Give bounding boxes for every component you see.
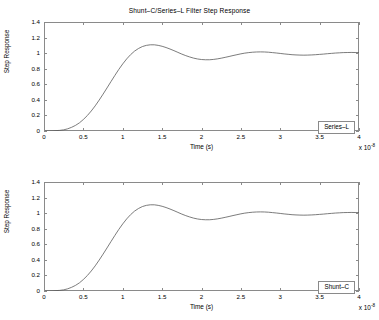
xtick-mark <box>359 288 360 291</box>
xtick-label: 2 <box>187 293 217 300</box>
xtick-mark-top <box>83 182 84 185</box>
ytick-mark <box>44 53 47 54</box>
ytick-label: 0.2 <box>14 111 40 118</box>
xtick-mark <box>280 288 281 291</box>
ytick-mark-right <box>356 38 359 39</box>
ytick-mark-right <box>356 115 359 116</box>
ytick-mark <box>44 198 47 199</box>
ytick-mark-right <box>356 260 359 261</box>
xtick-mark <box>359 128 360 131</box>
xaxis-title-bottom: Time (s) <box>44 303 359 310</box>
ytick-mark-right <box>356 291 359 292</box>
ytick-label: 0 <box>14 287 40 294</box>
ytick-mark <box>44 38 47 39</box>
xtick-label: 2.5 <box>226 293 256 300</box>
legend-label-text: Shunt–C <box>324 283 349 290</box>
ytick-label: 1.4 <box>14 18 40 25</box>
xtick-mark-top <box>359 182 360 185</box>
xtick-mark-top <box>202 182 203 185</box>
ytick-mark-right <box>356 100 359 101</box>
xtick-label: 3.5 <box>305 293 335 300</box>
ytick-mark <box>44 115 47 116</box>
xtick-label: 3 <box>265 293 295 300</box>
xtick-mark <box>123 128 124 131</box>
ytick-mark <box>44 100 47 101</box>
xtick-mark-top <box>83 22 84 25</box>
xtick-mark <box>280 128 281 131</box>
ytick-mark-right <box>356 213 359 214</box>
xtick-mark-top <box>280 182 281 185</box>
exponent-value-text: -8 <box>371 143 375 148</box>
legend-label-text: Series–L <box>324 123 349 130</box>
xtick-mark <box>83 128 84 131</box>
exponent-value-text: -8 <box>371 303 375 308</box>
ytick-label: 0.2 <box>14 271 40 278</box>
ytick-mark <box>44 69 47 70</box>
xtick-mark <box>202 128 203 131</box>
ytick-mark-right <box>356 182 359 183</box>
exponent-base-text: x 10 <box>359 304 371 311</box>
xtick-mark-top <box>320 182 321 185</box>
ytick-label: 1.2 <box>14 194 40 201</box>
ytick-mark-right <box>356 275 359 276</box>
xtick-label: 4 <box>344 133 374 140</box>
ytick-mark-right <box>356 244 359 245</box>
legend-box-shunt-c[interactable]: Shunt–C <box>318 281 355 294</box>
ytick-label: 1.4 <box>14 178 40 185</box>
xtick-mark <box>162 288 163 291</box>
xtick-label: 1 <box>108 293 138 300</box>
plot-area-top <box>44 22 359 131</box>
legend-box-series-l[interactable]: Series–L <box>318 121 355 134</box>
yaxis-title-top: Step Response <box>3 17 10 87</box>
ytick-label: 0.8 <box>14 65 40 72</box>
xtick-label: 1 <box>108 133 138 140</box>
xtick-label: 3 <box>265 133 295 140</box>
ytick-mark <box>44 291 47 292</box>
xtick-label: 2 <box>187 133 217 140</box>
exponent-base-text: x 10 <box>359 144 371 151</box>
ytick-mark <box>44 22 47 23</box>
ytick-mark <box>44 260 47 261</box>
xtick-mark <box>241 288 242 291</box>
ytick-mark-right <box>356 84 359 85</box>
yaxis-title-bottom: Step Response <box>3 177 10 247</box>
ytick-label: 0.4 <box>14 256 40 263</box>
ytick-label: 0.4 <box>14 96 40 103</box>
step-response-curve-shunt-c <box>44 182 359 291</box>
step-response-curve-series-l <box>44 22 359 131</box>
ytick-mark <box>44 229 47 230</box>
xtick-label: 0 <box>29 133 59 140</box>
xtick-label: 1.5 <box>147 293 177 300</box>
xtick-mark-top <box>162 22 163 25</box>
xtick-mark-top <box>359 22 360 25</box>
xtick-mark-top <box>241 22 242 25</box>
ytick-mark-right <box>356 53 359 54</box>
xtick-label: 0.5 <box>68 293 98 300</box>
xtick-mark-top <box>202 22 203 25</box>
xtick-mark <box>123 288 124 291</box>
xtick-label: 0 <box>29 293 59 300</box>
ytick-label: 0.6 <box>14 240 40 247</box>
xaxis-exponent-top: x 10-8 <box>359 143 375 151</box>
ytick-mark-right <box>356 69 359 70</box>
ytick-label: 1.2 <box>14 34 40 41</box>
xtick-mark-top <box>123 22 124 25</box>
xtick-mark-top <box>320 22 321 25</box>
subplot-series-l: Shunt–C/Series–L Filter Step Response 00… <box>0 0 379 160</box>
xtick-mark <box>202 288 203 291</box>
ytick-mark <box>44 213 47 214</box>
xtick-mark-top <box>123 182 124 185</box>
xtick-mark-top <box>162 182 163 185</box>
xtick-label: 2.5 <box>226 133 256 140</box>
ytick-label: 1 <box>14 49 40 56</box>
xtick-label: 0.5 <box>68 133 98 140</box>
xtick-label: 3.5 <box>305 133 335 140</box>
xaxis-exponent-bottom: x 10-8 <box>359 303 375 311</box>
xtick-label: 1.5 <box>147 133 177 140</box>
ytick-label: 0 <box>14 127 40 134</box>
ytick-mark-right <box>356 22 359 23</box>
xtick-mark-top <box>280 22 281 25</box>
ytick-mark-right <box>356 131 359 132</box>
ytick-label: 0.6 <box>14 80 40 87</box>
xtick-mark <box>162 128 163 131</box>
